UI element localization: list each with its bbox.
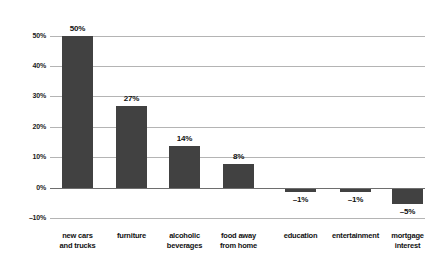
bar-value-label-entertainment: –1% [330, 195, 381, 204]
gridline-minus-10 [50, 218, 425, 219]
x-axis-label-line: beverages [154, 241, 215, 251]
bar-value-label-new-cars-and-trucks: 50% [52, 24, 103, 33]
bar-new-cars-and-trucks [62, 36, 93, 188]
y-axis-tick-30: 30% [2, 92, 46, 100]
bar-food-away-from-home [223, 164, 254, 188]
bar-chart: 50% 40% 30% 20% 10% 0% –10% 50% 27% 14% … [0, 0, 443, 266]
x-axis-label-food-away-from-home: food away from home [208, 231, 269, 251]
x-axis-label-furniture: furniture [101, 231, 162, 241]
x-axis-label-line: food away [208, 231, 269, 241]
x-axis-label-line: mortgage [377, 231, 438, 241]
x-axis-label-mortgage-interest: mortgage interest [377, 231, 438, 251]
x-axis-label-line: new cars [47, 231, 108, 241]
bar-value-label-mortgage-interest: –5% [382, 207, 433, 216]
gridline-20 [50, 127, 425, 128]
x-axis-label-new-cars-and-trucks: new cars and trucks [47, 231, 108, 251]
x-axis-label-alcoholic-beverages: alcoholic beverages [154, 231, 215, 251]
gridline-50 [50, 36, 425, 37]
bar-education [285, 189, 316, 192]
x-axis-label-line: from home [208, 241, 269, 251]
y-axis-tick-20: 20% [2, 123, 46, 131]
x-axis-label-line: furniture [101, 231, 162, 241]
bar-alcoholic-beverages [169, 146, 200, 188]
gridline-40 [50, 66, 425, 67]
y-axis-tick-minus-10: –10% [2, 214, 46, 222]
y-axis-tick-10: 10% [2, 153, 46, 161]
x-axis-label-line: and trucks [47, 241, 108, 251]
x-axis-label-line: interest [377, 241, 438, 251]
y-axis-tick-40: 40% [2, 62, 46, 70]
y-axis-tick-50: 50% [2, 32, 46, 40]
x-axis-label-line: alcoholic [154, 231, 215, 241]
bar-furniture [116, 106, 147, 188]
bar-value-label-alcoholic-beverages: 14% [159, 134, 210, 143]
bar-entertainment [340, 189, 371, 192]
y-axis-tick-0: 0% [2, 184, 46, 192]
bar-mortgage-interest [392, 189, 423, 204]
bar-value-label-education: –1% [275, 195, 326, 204]
bar-value-label-furniture: 27% [106, 94, 157, 103]
bar-value-label-food-away-from-home: 8% [213, 152, 264, 161]
